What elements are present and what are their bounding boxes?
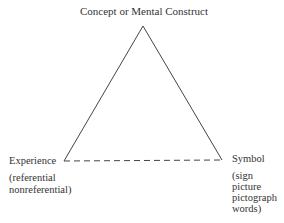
experience-sub-2: nonreferential) xyxy=(9,184,71,196)
symbol-sub-4: words) xyxy=(232,203,261,215)
edge-concept-symbol xyxy=(143,26,222,160)
experience-sub-1: (referential xyxy=(9,172,56,184)
symbol-label: Symbol xyxy=(232,153,265,165)
apex-label: Concept or Mental Construct xyxy=(80,5,208,17)
edge-experience-symbol-dashed xyxy=(64,160,222,161)
edge-concept-experience xyxy=(64,26,143,161)
experience-label: Experience xyxy=(9,155,56,167)
